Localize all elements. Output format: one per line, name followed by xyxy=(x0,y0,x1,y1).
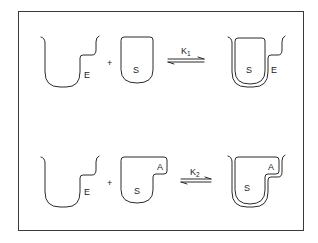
complex-substrate-label: S xyxy=(244,183,250,193)
complex-substrate-shape xyxy=(235,38,265,84)
substrate-site-a-label: A xyxy=(157,162,163,172)
complex-substrate-label: S xyxy=(246,65,252,75)
reaction-diagram: E + S K1 S E E + A S K2 A S xyxy=(0,0,318,243)
rate-constant-label: K2 xyxy=(190,167,200,178)
enzyme-shape xyxy=(41,156,99,207)
substrate-label: S xyxy=(134,186,140,196)
plus-sign: + xyxy=(107,178,112,188)
complex-enzyme-label: E xyxy=(271,65,277,75)
enzyme-label: E xyxy=(84,70,90,80)
enzyme-shape xyxy=(41,36,99,87)
complex-enzyme-shape xyxy=(228,36,285,87)
plus-sign: + xyxy=(107,58,112,68)
rate-constant-label: K1 xyxy=(181,46,191,57)
substrate-shape xyxy=(121,37,153,83)
complex-enzyme-shape xyxy=(228,155,285,207)
complex-site-a-label: A xyxy=(268,162,274,172)
enzyme-label: E xyxy=(84,187,90,197)
substrate-label: S xyxy=(133,65,139,75)
